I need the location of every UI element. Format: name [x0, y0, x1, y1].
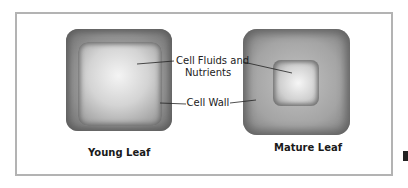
leader-mature-fluids	[243, 62, 292, 73]
leader-lines	[0, 0, 408, 188]
mature-leaf-caption: Mature Leaf	[274, 142, 342, 153]
cell-fluids-label-line1: Cell Fluids and	[176, 55, 240, 67]
leader-young-wall	[160, 103, 186, 104]
cell-wall-label: Cell Wall	[186, 97, 230, 109]
leader-young-fluids	[137, 61, 174, 64]
leader-mature-wall	[230, 100, 256, 103]
young-leaf-caption: Young Leaf	[88, 147, 150, 158]
cell-fluids-label: Cell Fluids and Nutrients	[176, 55, 240, 79]
cropped-edge-glyph	[403, 151, 408, 161]
cell-fluids-label-line2: Nutrients	[176, 67, 240, 79]
